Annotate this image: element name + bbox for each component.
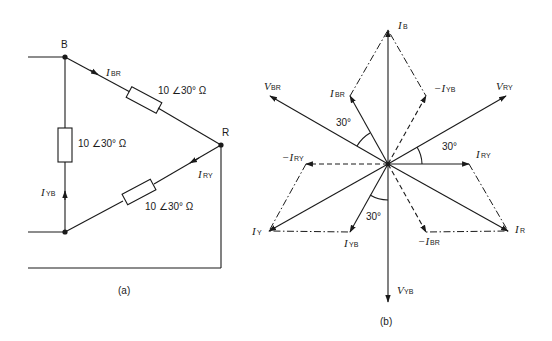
svg-text:Y: Y xyxy=(257,229,262,236)
label-impedance-br: 10 ∠30° Ω xyxy=(158,85,207,96)
svg-text:BR: BR xyxy=(335,91,345,98)
svg-text:BR: BR xyxy=(271,84,281,91)
label-v-yb: V YB xyxy=(397,284,414,296)
diagram-canvas: B R 10 ∠30° Ω 10 ∠30° Ω 10 ∠30° Ω I BR I… xyxy=(0,0,552,341)
label-i-yb: I YB xyxy=(343,237,359,249)
label-impedance-yb: 10 ∠30° Ω xyxy=(78,138,127,149)
svg-text:RY: RY xyxy=(481,152,491,159)
svg-text:R: R xyxy=(520,227,525,234)
caption-a: (a) xyxy=(118,285,130,296)
label-i-r: I R xyxy=(514,223,525,235)
label-angle-right: 30° xyxy=(442,141,457,152)
wire-br-lower xyxy=(158,108,221,145)
origin-point xyxy=(386,162,390,166)
resistor-br xyxy=(126,87,162,114)
label-current-yb: I YB xyxy=(40,186,56,198)
node-y xyxy=(62,229,67,234)
label-current-br: I BR xyxy=(105,66,121,78)
resistor-yb xyxy=(58,128,72,162)
phasor-i-br xyxy=(350,96,388,164)
label-node-r: R xyxy=(222,127,229,138)
label-i-y: I Y xyxy=(251,225,262,237)
arrow-i-br xyxy=(90,70,98,75)
label-node-b: B xyxy=(61,39,68,50)
svg-text:RY: RY xyxy=(294,155,304,162)
svg-text:YB: YB xyxy=(349,241,359,248)
label-v-ry: V RY xyxy=(496,80,513,92)
label-impedance-ry: 10 ∠30° Ω xyxy=(145,201,194,212)
label-angle-bottom: 30° xyxy=(366,211,381,222)
phasor-diagram-b: V RY V BR V YB I B I BR −I YB I RY −I R xyxy=(251,19,525,327)
angle-arc-bottom xyxy=(370,195,388,200)
label-neg-i-br: −I BR xyxy=(418,235,440,247)
angle-arc-right xyxy=(417,147,422,164)
circuit-diagram-a: B R 10 ∠30° Ω 10 ∠30° Ω 10 ∠30° Ω I BR I… xyxy=(28,39,229,296)
svg-text:YB: YB xyxy=(446,86,456,93)
label-angle-top-left: 30° xyxy=(336,117,351,128)
node-r xyxy=(218,142,223,147)
label-current-ry: I RY xyxy=(197,168,213,180)
wire-ry-lower xyxy=(65,201,123,232)
label-i-b: I B xyxy=(397,19,408,31)
svg-text:RY: RY xyxy=(203,172,213,179)
svg-text:YB: YB xyxy=(46,190,56,197)
label-i-ry: I RY xyxy=(475,148,491,160)
svg-text:BR: BR xyxy=(111,70,121,77)
svg-text:−I: −I xyxy=(282,151,294,163)
label-neg-i-ry: −I RY xyxy=(282,151,304,163)
caption-b: (b) xyxy=(380,316,392,327)
construction-i-r xyxy=(426,164,508,232)
label-v-br: V BR xyxy=(264,80,281,92)
svg-text:−I: −I xyxy=(418,235,430,247)
angle-arc-top-left xyxy=(357,133,370,146)
label-i-br: I BR xyxy=(329,87,345,99)
node-b xyxy=(62,54,67,59)
svg-text:−I: −I xyxy=(434,82,446,94)
arrow-i-ry xyxy=(190,158,199,163)
label-neg-i-yb: −I YB xyxy=(434,82,456,94)
phasor-i-r xyxy=(388,164,508,231)
svg-text:RY: RY xyxy=(503,84,513,91)
svg-text:B: B xyxy=(403,23,408,30)
svg-text:BR: BR xyxy=(430,239,440,246)
svg-text:YB: YB xyxy=(404,288,414,295)
construction-i-y xyxy=(269,164,350,232)
